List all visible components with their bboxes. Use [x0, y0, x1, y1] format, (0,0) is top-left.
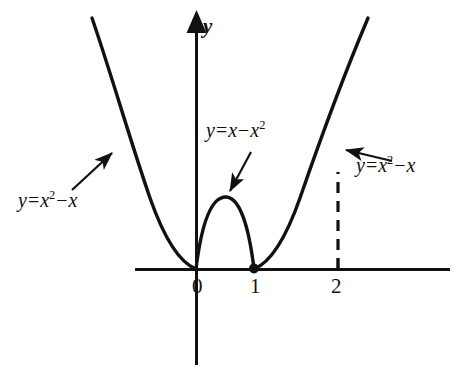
tick-label-1: 1 — [250, 276, 261, 297]
label-mid-minus: − — [237, 119, 250, 141]
label-left-tail: x — [69, 189, 78, 211]
label-mid-lhs: y — [206, 119, 215, 141]
tick-label-0: 0 — [192, 276, 203, 297]
tick-label-2: 2 — [331, 276, 342, 297]
label-left-curve-equation: y=x2−x — [18, 190, 77, 210]
label-middle-curve-equation: y=x−x2 — [206, 120, 265, 140]
point-marker-x1 — [249, 264, 259, 274]
label-right-curve-equation: y=x2−x — [356, 155, 415, 175]
label-right-minus: − — [393, 154, 406, 176]
label-right-lhs: y — [356, 154, 365, 176]
label-left-minus: − — [55, 189, 68, 211]
label-mid-first: x — [228, 119, 237, 141]
label-left-equals: = — [27, 189, 40, 211]
label-mid-equals: = — [215, 119, 228, 141]
label-right-base: x — [378, 154, 387, 176]
label-mid-exponent: 2 — [259, 118, 265, 132]
leader-arrow-middle — [230, 152, 251, 191]
curve-x-minus-x2-hump — [196, 197, 254, 269]
label-mid-base: x — [250, 119, 259, 141]
leader-arrow-left — [72, 153, 112, 190]
label-right-equals: = — [365, 154, 378, 176]
parabola-figure: y y=x2−x y=x−x2 y=x2−x 0 1 2 — [0, 0, 476, 378]
label-right-tail: x — [407, 154, 416, 176]
label-left-base: x — [40, 189, 49, 211]
y-axis-label: y — [203, 16, 212, 37]
curve-x2-minus-x-right — [254, 18, 368, 269]
label-left-lhs: y — [18, 189, 27, 211]
curve-x2-minus-x-left — [92, 18, 196, 269]
